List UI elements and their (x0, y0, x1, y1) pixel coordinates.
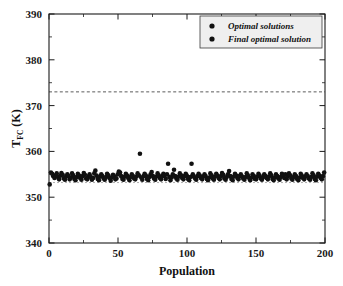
data-points-layer (47, 151, 326, 186)
data-point (227, 169, 232, 174)
figure-container: 050100150200340350360370380390 Optimal s… (0, 0, 343, 286)
data-point (166, 161, 171, 166)
y-axis-title-main: T (9, 140, 23, 148)
data-point (114, 176, 119, 181)
x-tick-label: 100 (179, 247, 196, 259)
y-tick-label: 340 (26, 237, 43, 249)
data-point (172, 167, 177, 172)
legend[interactable]: Optimal solutionsFinal optimal solution (200, 16, 322, 48)
y-tick-label: 380 (26, 54, 43, 66)
svg-text:TFC (K): TFC (K) (9, 109, 25, 147)
y-tick-label: 390 (26, 8, 43, 20)
data-point (149, 170, 154, 175)
y-axis-title-subscript: FC (16, 130, 25, 140)
x-tick-label: 0 (46, 247, 52, 259)
y-tick-label: 370 (26, 100, 43, 112)
y-tick-label: 360 (26, 145, 43, 157)
y-axis-title: TFC (K) (9, 109, 25, 147)
legend-label[interactable]: Final optimal solution (227, 34, 311, 44)
legend-label[interactable]: Optimal solutions (228, 21, 294, 31)
x-tick-label: 50 (113, 247, 125, 259)
x-tick-label: 200 (317, 247, 334, 259)
data-point (138, 151, 143, 156)
x-tick-label: 150 (248, 247, 265, 259)
reference-line-layer (49, 92, 325, 183)
scatter-plot: 050100150200340350360370380390 Optimal s… (0, 0, 343, 286)
y-tick-label: 350 (26, 191, 43, 203)
legend-marker-icon (209, 36, 214, 41)
y-axis-title-unit: (K) (9, 109, 23, 129)
data-point (47, 182, 52, 187)
legend-marker-icon (209, 23, 214, 28)
data-point (93, 168, 98, 173)
data-point (189, 161, 194, 166)
x-axis-title: Population (159, 264, 215, 278)
